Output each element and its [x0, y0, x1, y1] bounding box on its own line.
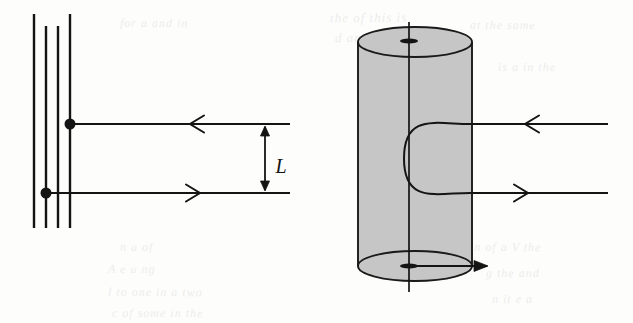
separation-dimension-L: [261, 126, 270, 191]
dimension-arrowhead-up: [261, 126, 270, 136]
upper-node-dot: [65, 119, 76, 130]
bottom-outflow-arrowhead: [474, 261, 488, 272]
parallel-lines-panel: L: [34, 14, 290, 228]
dimension-arrowhead-down: [261, 181, 270, 191]
left-field-rays: [46, 116, 290, 202]
lower-node-dot: [41, 188, 52, 199]
figure-page: the of this isd and afor a and inat the …: [0, 0, 633, 323]
parallel-vertical-lines: [34, 14, 70, 228]
solenoid-cylinder: [358, 27, 472, 281]
cylinder-panel: [358, 22, 608, 292]
separation-label-L: L: [274, 155, 286, 177]
physics-figure: L: [0, 0, 633, 323]
top-center-mark: [400, 38, 418, 43]
cylinder-body-fill: [358, 27, 472, 281]
